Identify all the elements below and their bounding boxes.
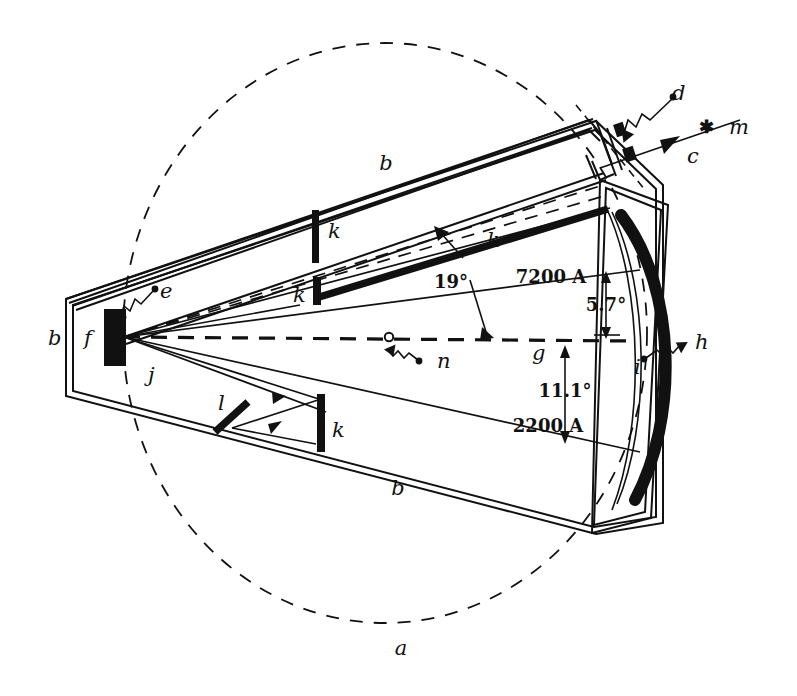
label-e: e [160, 279, 172, 303]
label-c: c [687, 144, 699, 168]
leader-n [383, 333, 422, 365]
baffle-bottom [317, 394, 325, 452]
label-m: m [729, 115, 749, 139]
spectrograph-figure: a b b b c d e f g h i j k k k k l m n ✱ … [0, 0, 797, 696]
label-a: a [395, 636, 408, 660]
baffle-top [312, 210, 319, 263]
optical-axis [124, 337, 634, 341]
beam-arrow-icon [660, 136, 680, 154]
label-k-top: k [328, 219, 341, 243]
label-h: h [695, 330, 709, 354]
label-f: f [82, 326, 95, 350]
label-d: d [672, 81, 685, 105]
annotation-11-1deg: 11.1° [539, 380, 592, 401]
leader-d [616, 94, 676, 146]
film-guide-line-2 [606, 207, 635, 510]
fold-mirror-l [215, 392, 318, 444]
label-b-left: b [48, 326, 61, 350]
label-k-mid: k [293, 283, 306, 307]
label-i: i [634, 355, 641, 379]
label-g: g [532, 341, 545, 365]
annotation-5-7deg: 5.7° [586, 294, 626, 315]
label-k-grating: k [487, 228, 500, 252]
label-l: l [218, 391, 225, 415]
leader-e [114, 286, 158, 330]
star-icon: ✱ [699, 116, 714, 137]
label-b-top: b [379, 151, 392, 175]
annotation-19deg: 19° [434, 271, 468, 292]
label-b-bottom: b [391, 476, 404, 500]
label-k-bottom: k [332, 418, 345, 442]
axis-marker-n [385, 333, 393, 341]
annotation-7200a: 7200 A [516, 266, 587, 287]
entrance-beam [576, 105, 740, 190]
annotation-2200a: 2200 A [513, 415, 584, 436]
label-n: n [437, 349, 451, 373]
diagram-root: a b b b c d e f g h i j k k k k l m n ✱ … [0, 0, 797, 696]
label-j: j [144, 363, 155, 387]
